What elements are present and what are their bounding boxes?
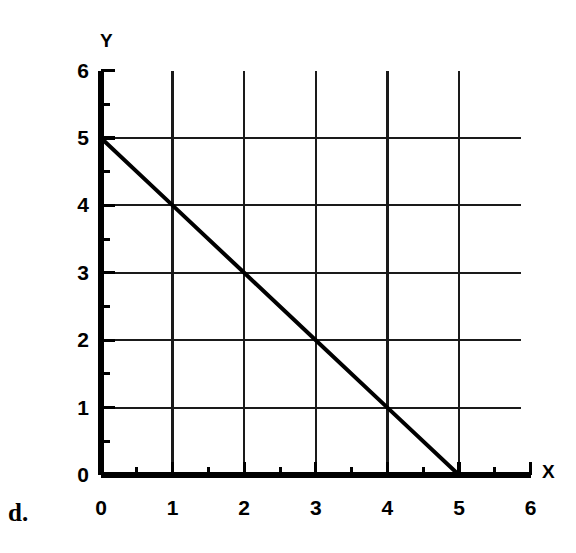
y-tick-label: 3 <box>65 262 89 283</box>
y-tick-label: 4 <box>65 194 89 215</box>
x-tick-label: 1 <box>160 497 186 518</box>
y-axis-label: Y <box>100 31 113 50</box>
x-tick-label: 4 <box>374 497 400 518</box>
graph-figure: Y X 0123456 0123456 d. <box>0 0 576 553</box>
x-tick-label: 2 <box>231 497 257 518</box>
y-tick-label: 2 <box>65 329 89 350</box>
data-line-series <box>101 138 459 475</box>
y-tick-label: 0 <box>65 464 89 485</box>
y-tick-label: 6 <box>65 60 89 81</box>
part-label: d. <box>8 500 28 525</box>
x-tick-label: 3 <box>303 497 329 518</box>
x-tick-label: 0 <box>88 497 114 518</box>
x-axis-label: X <box>542 462 555 481</box>
x-tick-label: 5 <box>446 497 472 518</box>
x-tick-label: 6 <box>518 497 544 518</box>
y-tick-label: 1 <box>65 397 89 418</box>
y-tick-label: 5 <box>65 127 89 148</box>
